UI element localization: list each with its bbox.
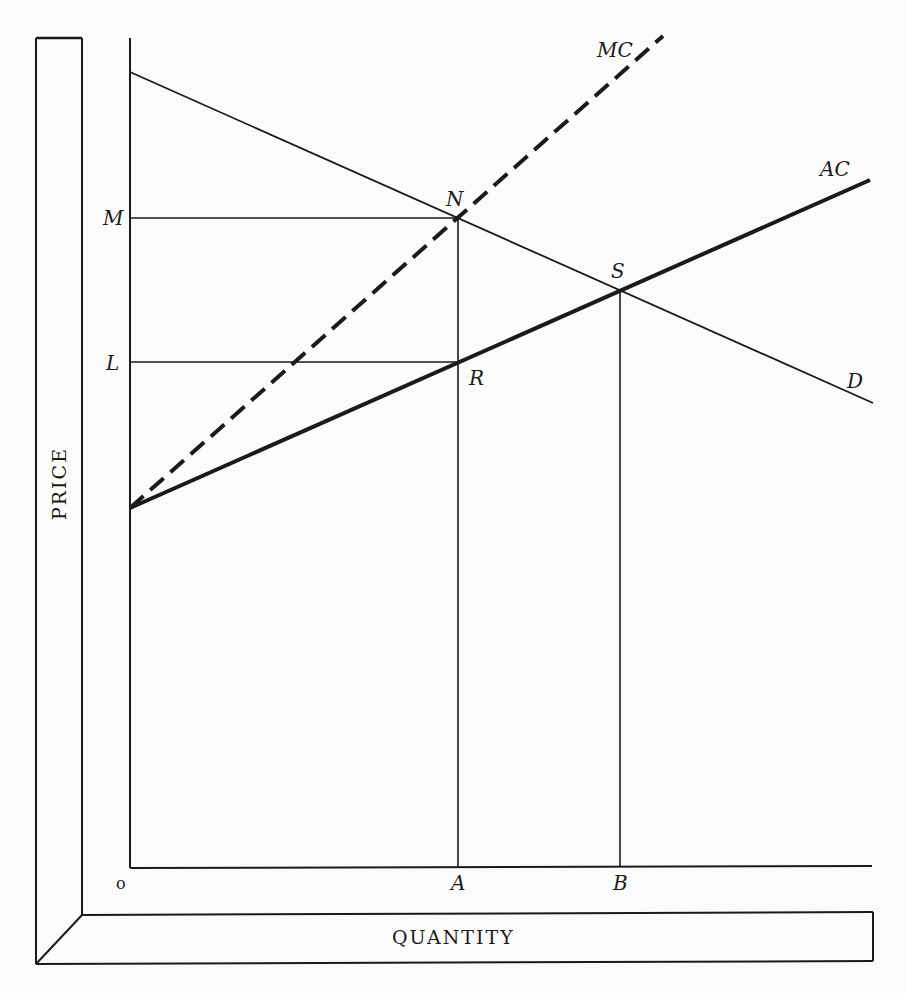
label-mc: MC xyxy=(596,38,633,62)
label-point-s: S xyxy=(611,259,625,283)
label-m: M xyxy=(102,206,124,230)
label-l: L xyxy=(105,351,119,375)
diagram-canvas: MC AC D N S R M L A B o PRICE QUANTITY xyxy=(0,0,905,993)
x-axis xyxy=(130,866,872,868)
frame xyxy=(36,38,873,964)
demand-curve xyxy=(130,72,873,403)
label-point-r: R xyxy=(468,366,484,390)
guide-lines xyxy=(130,218,620,867)
axes xyxy=(130,38,872,868)
label-origin: o xyxy=(116,874,126,893)
y-axis-title: PRICE xyxy=(48,447,70,520)
label-b: B xyxy=(612,871,628,895)
label-d: D xyxy=(846,369,863,393)
label-point-n: N xyxy=(445,187,465,211)
average-cost-curve xyxy=(130,180,870,508)
label-ac: AC xyxy=(818,157,850,181)
x-axis-title: QUANTITY xyxy=(392,926,515,948)
label-a: A xyxy=(449,871,465,895)
